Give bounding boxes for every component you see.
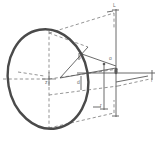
post-top-arrow (107, 11, 113, 12)
dimension-label-center: d (77, 80, 80, 85)
box-edge-bottom-slope (49, 113, 114, 128)
dimension-label-right: l (151, 78, 152, 83)
node-dot-axis (114, 68, 117, 74)
figure-container: L l d o r l z (0, 0, 161, 146)
box-edge-top-slope (49, 13, 114, 33)
node-dot-centre (103, 63, 106, 66)
solid-structure-lines (60, 9, 155, 117)
dimension-label-node: o (109, 56, 112, 61)
lower-right-solid-edge (116, 76, 148, 82)
box-edge-top-front (49, 33, 88, 47)
dashed-projection-box (3, 13, 150, 130)
axis-node-markers (103, 63, 118, 75)
technical-drawing-svg (0, 0, 161, 146)
dimension-label-bottom: r (100, 103, 102, 108)
dimension-label-disc-center: z (45, 80, 48, 85)
box-edge-right-lower (118, 79, 150, 86)
dimension-label-mid-left: l (80, 55, 81, 60)
box-edge-mid-left (18, 72, 44, 76)
dimension-label-top: L (113, 3, 116, 8)
lower-receding-edge (49, 86, 118, 95)
